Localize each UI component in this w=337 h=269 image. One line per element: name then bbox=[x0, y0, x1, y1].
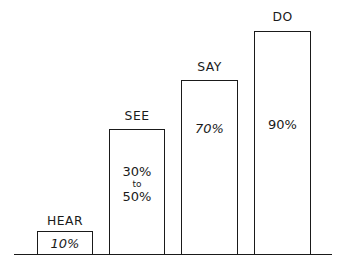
bar-do: 90% bbox=[254, 31, 311, 255]
bar-value-do: 90% bbox=[255, 117, 310, 132]
bar-chart: HEAR 10% SEE 30% to 50% SAY 70% DO 90% bbox=[0, 0, 337, 269]
bar-say: 70% bbox=[181, 80, 238, 255]
bar-value-say: 70% bbox=[182, 121, 237, 136]
bar-label-do: DO bbox=[255, 9, 309, 24]
bar-hear: 10% bbox=[37, 231, 93, 255]
bar-label-see: SEE bbox=[110, 108, 163, 123]
bar-value-see: 30% to 50% bbox=[110, 164, 164, 204]
bar-value-hear: 10% bbox=[38, 236, 92, 251]
bar-see: 30% to 50% bbox=[109, 129, 165, 255]
bar-label-say: SAY bbox=[182, 59, 236, 74]
x-axis-baseline bbox=[14, 254, 332, 255]
bar-label-hear: HEAR bbox=[38, 213, 91, 228]
